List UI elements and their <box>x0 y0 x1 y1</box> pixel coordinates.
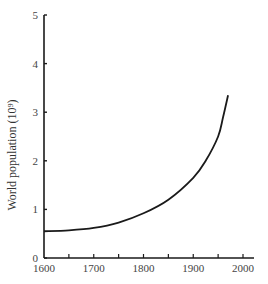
ticks <box>44 15 243 258</box>
x-tick-label: 1800 <box>133 262 156 274</box>
axes <box>44 15 254 258</box>
population-chart: 01234516001700180019002000 World populat… <box>0 0 268 284</box>
y-tick-label: 5 <box>33 9 39 21</box>
x-tick-label: 2000 <box>232 262 255 274</box>
x-tick-label: 1700 <box>83 262 106 274</box>
y-tick-label: 3 <box>33 106 39 118</box>
y-axis-label: World population (10⁹) <box>5 99 19 210</box>
y-tick-label: 1 <box>33 203 39 215</box>
y-tick-label: 4 <box>33 58 39 70</box>
x-tick-label: 1900 <box>182 262 205 274</box>
population-curve <box>44 95 228 231</box>
tick-labels: 01234516001700180019002000 <box>33 9 255 274</box>
x-tick-label: 1600 <box>33 262 56 274</box>
y-tick-label: 2 <box>33 155 39 167</box>
